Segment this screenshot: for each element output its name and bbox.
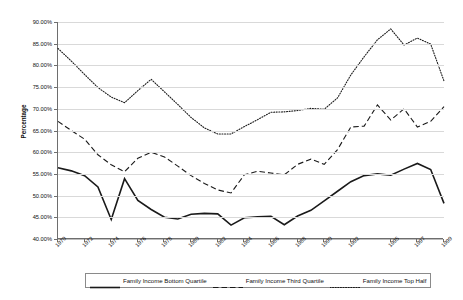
gridline <box>58 65 444 66</box>
gridline <box>58 109 444 110</box>
gridline <box>58 131 444 132</box>
y-axis-tick-label: 75.00% <box>0 84 52 90</box>
y-axis-tick-label: 40.00% <box>0 236 52 242</box>
series-line <box>58 29 444 134</box>
y-axis-tick-label: 85.00% <box>0 41 52 47</box>
gridline <box>58 174 444 175</box>
gridline <box>58 44 444 45</box>
legend-item: Family Income Third Quartile <box>213 277 324 284</box>
legend-item: Family Income Top Half <box>330 277 427 284</box>
legend-swatch-dashed <box>213 277 243 284</box>
x-axis-tick-label: 1970 <box>54 235 67 248</box>
y-axis-tick-label: 60.00% <box>0 149 52 155</box>
legend-swatch-dotted <box>330 277 360 284</box>
gridline <box>58 196 444 197</box>
y-axis-tick-label: 80.00% <box>0 62 52 68</box>
y-axis-tick-label: 50.00% <box>0 193 52 199</box>
legend-label: Family Income Third Quartile <box>246 277 324 284</box>
legend-swatch-solid <box>90 277 120 284</box>
gridline <box>58 87 444 88</box>
y-axis-tick-label: 45.00% <box>0 214 52 220</box>
gridline <box>58 217 444 218</box>
gridline <box>58 152 444 153</box>
plot-area <box>57 22 443 239</box>
series-line <box>58 105 444 193</box>
line-chart: Percentage 40.00%45.00%50.00%55.00%60.00… <box>0 0 463 300</box>
chart-legend: Family Income Bottom QuartileFamily Inco… <box>85 273 431 288</box>
legend-label: Family Income Top Half <box>363 277 427 284</box>
y-axis-tick-label: 65.00% <box>0 128 52 134</box>
x-axis: 1970197219741976197819801982198419861988… <box>57 239 443 273</box>
y-axis-tick-label: 70.00% <box>0 106 52 112</box>
legend-item: Family Income Bottom Quartile <box>90 277 207 284</box>
legend-label: Family Income Bottom Quartile <box>123 277 207 284</box>
series-line <box>58 163 444 225</box>
y-axis-tick-label: 90.00% <box>0 19 52 25</box>
y-axis-tick-label: 55.00% <box>0 171 52 177</box>
y-axis-labels: 40.00%45.00%50.00%55.00%60.00%65.00%70.0… <box>0 22 54 239</box>
gridline <box>58 22 444 23</box>
